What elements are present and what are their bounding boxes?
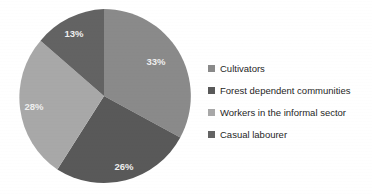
legend-label: Workers in the informal sector <box>220 107 346 118</box>
pie-label-forest-dependent-communities: 26% <box>114 161 134 172</box>
chart-legend: Cultivators Forest dependent communities… <box>208 58 372 146</box>
legend-label: Cultivators <box>220 63 265 74</box>
legend-item-cultivators[interactable]: Cultivators <box>208 58 372 78</box>
legend-label: Forest dependent communities <box>220 85 350 96</box>
pie-label-workers-informal-sector: 28% <box>24 101 44 112</box>
legend-swatch-icon <box>208 65 215 72</box>
pie-chart-plot-area: 33% 26% 28% 13% <box>16 8 192 184</box>
pie-label-casual-labourer: 13% <box>64 28 84 39</box>
legend-item-forest-dependent-communities[interactable]: Forest dependent communities <box>208 80 372 100</box>
legend-swatch-icon <box>208 87 215 94</box>
legend-label: Casual labourer <box>220 129 287 140</box>
pie-chart-svg: 33% 26% 28% 13% <box>16 8 192 184</box>
legend-item-casual-labourer[interactable]: Casual labourer <box>208 124 372 144</box>
legend-item-workers-informal-sector[interactable]: Workers in the informal sector <box>208 102 372 122</box>
pie-label-cultivators: 33% <box>146 56 166 67</box>
pie-chart-figure: 33% 26% 28% 13% Cultivators Forest depen… <box>0 0 372 194</box>
legend-swatch-icon <box>208 131 215 138</box>
legend-swatch-icon <box>208 109 215 116</box>
